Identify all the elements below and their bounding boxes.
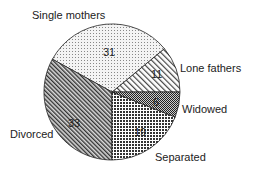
pie-chart: 31 11 6 33 19: [0, 0, 254, 175]
label-single-mothers: Single mothers: [32, 9, 105, 21]
label-lone-fathers: Lone fathers: [180, 62, 241, 74]
label-widowed: Widowed: [182, 103, 227, 115]
value-divorced: 33: [68, 117, 80, 129]
value-widowed: 6: [153, 96, 159, 108]
value-single-mothers: 31: [103, 46, 115, 58]
value-separated: 19: [134, 126, 146, 138]
value-lone-fathers: 11: [151, 68, 162, 80]
label-separated: Separated: [155, 151, 206, 163]
label-divorced: Divorced: [10, 128, 53, 140]
